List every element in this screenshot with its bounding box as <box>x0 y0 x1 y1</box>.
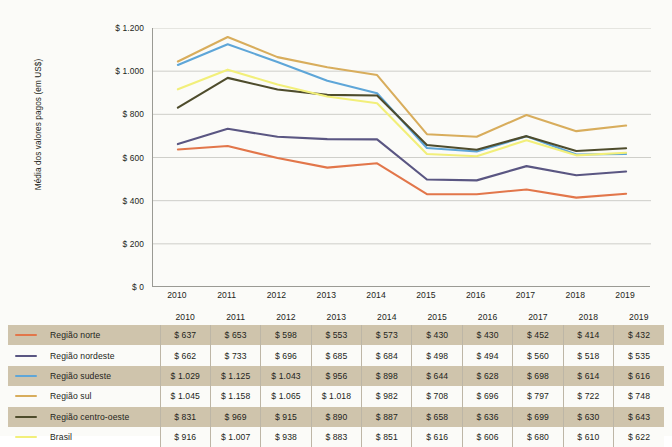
legend-swatch-wrap <box>8 355 44 357</box>
x-tick-label: 2019 <box>615 290 635 300</box>
x-tick-label: 2015 <box>416 290 436 300</box>
table-cell: $ 636 <box>462 407 512 427</box>
table-cell: $ 1.065 <box>261 386 311 406</box>
legend-color-swatch-icon <box>15 375 37 377</box>
table-cell: $ 797 <box>513 386 563 406</box>
table-cell: $ 708 <box>412 386 462 406</box>
y-tick-label: $ 800 <box>123 109 144 119</box>
legend-entry[interactable]: Região centro-oeste <box>8 407 160 427</box>
table-cell: $ 748 <box>614 386 664 406</box>
legend-swatch-wrap <box>8 334 44 336</box>
table-cell: $ 685 <box>311 345 361 365</box>
series-line <box>178 44 626 154</box>
table-header-cell: 2014 <box>362 308 412 325</box>
legend-entry-inner: Região nordeste <box>8 345 160 365</box>
legend-entry[interactable]: Brasil <box>8 427 160 447</box>
legend-swatch-wrap <box>8 375 44 377</box>
x-tick-label: 2012 <box>267 290 287 300</box>
x-axis-tick-labels: 2010201120122013201420152016201720182019 <box>152 290 650 308</box>
table-cell: $ 956 <box>311 366 361 386</box>
legend-swatch-wrap <box>8 395 44 397</box>
table-header-row: 2010201120122013201420152016201720182019 <box>8 308 664 325</box>
x-tick-label: 2018 <box>566 290 586 300</box>
legend-swatch-wrap <box>8 416 44 418</box>
table-cell: $ 452 <box>513 325 563 345</box>
table-cell: $ 598 <box>261 325 311 345</box>
table-header-cell: 2018 <box>563 308 613 325</box>
series-lines <box>153 28 651 287</box>
y-tick-label: $ 0 <box>132 282 144 292</box>
x-tick-label: 2013 <box>317 290 337 300</box>
table-row: Região centro-oeste$ 831$ 969$ 915$ 890$… <box>8 407 664 427</box>
data-table-container: 2010201120122013201420152016201720182019… <box>8 308 664 431</box>
table-cell: $ 606 <box>462 427 512 447</box>
table-cell: $ 658 <box>412 407 462 427</box>
table-cell: $ 722 <box>563 386 613 406</box>
table-cell: $ 698 <box>513 366 563 386</box>
legend-color-swatch-icon <box>15 355 37 357</box>
x-tick-label: 2017 <box>516 290 536 300</box>
table-cell: $ 916 <box>160 427 210 447</box>
table-cell: $ 696 <box>261 345 311 365</box>
table-cell: $ 610 <box>563 427 613 447</box>
table-cell: $ 573 <box>362 325 412 345</box>
legend-entry[interactable]: Região sudeste <box>8 366 160 386</box>
table-cell: $ 614 <box>563 366 613 386</box>
table-cell: $ 1.029 <box>160 366 210 386</box>
table-row: Região sudeste$ 1.029$ 1.125$ 1.043$ 956… <box>8 366 664 386</box>
legend-entry[interactable]: Região sul <box>8 386 160 406</box>
table-cell: $ 883 <box>311 427 361 447</box>
table-header-cell: 2016 <box>462 308 512 325</box>
table-cell: $ 553 <box>311 325 361 345</box>
table-header-cell: 2013 <box>311 308 361 325</box>
table-cell: $ 969 <box>210 407 260 427</box>
legend-entry-inner: Região sul <box>8 386 160 406</box>
table-row: Região sul$ 1.045$ 1.158$ 1.065$ 1.018$ … <box>8 386 664 406</box>
table-cell: $ 630 <box>563 407 613 427</box>
legend-label: Região sul <box>44 391 160 401</box>
plot-area <box>152 28 650 287</box>
legend-label: Região centro-oeste <box>44 412 160 422</box>
legend-entry-inner: Região norte <box>8 325 160 345</box>
table-row: Região norte$ 637$ 653$ 598$ 553$ 573$ 4… <box>8 325 664 345</box>
legend-label: Região sudeste <box>44 371 160 381</box>
legend-color-swatch-icon <box>15 395 37 397</box>
table-row: Região nordeste$ 662$ 733$ 696$ 685$ 684… <box>8 345 664 365</box>
table-cell: $ 535 <box>614 345 664 365</box>
legend-entry[interactable]: Região nordeste <box>8 345 160 365</box>
legend-color-swatch-icon <box>15 436 37 438</box>
table-cell: $ 1.007 <box>210 427 260 447</box>
y-tick-label: $ 1.000 <box>115 66 144 76</box>
table-cell: $ 1.043 <box>261 366 311 386</box>
x-tick-label: 2014 <box>366 290 386 300</box>
table-cell: $ 733 <box>210 345 260 365</box>
y-tick-label: $ 400 <box>123 196 144 206</box>
table-header-cell: 2019 <box>614 308 664 325</box>
table-cell: $ 662 <box>160 345 210 365</box>
y-tick-label: $ 600 <box>123 153 144 163</box>
table-header-cell: 2012 <box>261 308 311 325</box>
table-cell: $ 637 <box>160 325 210 345</box>
table-cell: $ 890 <box>311 407 361 427</box>
table-cell: $ 430 <box>412 325 462 345</box>
table-header-cell: 2010 <box>160 308 210 325</box>
table-cell: $ 699 <box>513 407 563 427</box>
table-cell: $ 494 <box>462 345 512 365</box>
table-cell: $ 414 <box>563 325 613 345</box>
table-cell: $ 938 <box>261 427 311 447</box>
legend-label: Brasil <box>44 432 160 442</box>
table-cell: $ 628 <box>462 366 512 386</box>
table-cell: $ 644 <box>412 366 462 386</box>
table-cell: $ 1.158 <box>210 386 260 406</box>
data-table: 2010201120122013201420152016201720182019… <box>8 308 664 447</box>
table-header-cell: 2017 <box>513 308 563 325</box>
legend-color-swatch-icon <box>15 334 37 336</box>
y-tick-label: $ 1.200 <box>115 23 144 33</box>
legend-entry-inner: Brasil <box>8 427 160 447</box>
table-cell: $ 643 <box>614 407 664 427</box>
legend-color-swatch-icon <box>15 416 37 418</box>
table-cell: $ 831 <box>160 407 210 427</box>
legend-label: Região norte <box>44 330 160 340</box>
legend-entry[interactable]: Região norte <box>8 325 160 345</box>
x-tick-label: 2010 <box>167 290 187 300</box>
